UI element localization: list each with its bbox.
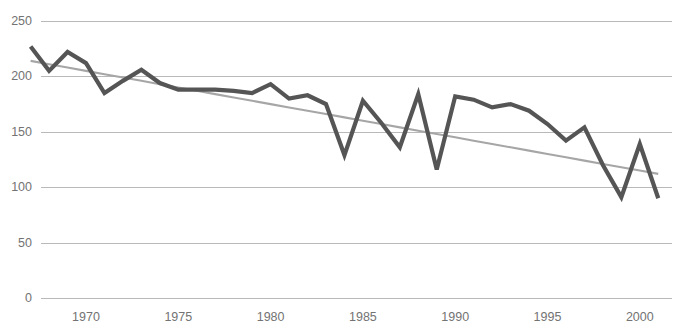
y-tick-label-200: 200 <box>0 70 32 83</box>
x-tick-label-1990: 1990 <box>441 311 469 324</box>
y-tick-label-50: 50 <box>0 236 32 249</box>
data-line-path <box>31 46 659 198</box>
y-tick-label-150: 150 <box>0 126 32 139</box>
x-tick-label-1995: 1995 <box>534 311 562 324</box>
y-tick-label-0: 0 <box>0 292 32 305</box>
data-line-series <box>31 46 659 198</box>
x-tick-label-1985: 1985 <box>349 311 377 324</box>
x-tick-label-1970: 1970 <box>72 311 100 324</box>
x-tick-label-1975: 1975 <box>164 311 192 324</box>
x-tick-label-2000: 2000 <box>626 311 654 324</box>
y-tick-label-250: 250 <box>0 15 32 28</box>
line-chart: 050100150200250 197019751980198519901995… <box>0 0 686 336</box>
x-tick-label-1980: 1980 <box>257 311 285 324</box>
chart-plot-area <box>0 0 686 336</box>
y-tick-label-100: 100 <box>0 181 32 194</box>
